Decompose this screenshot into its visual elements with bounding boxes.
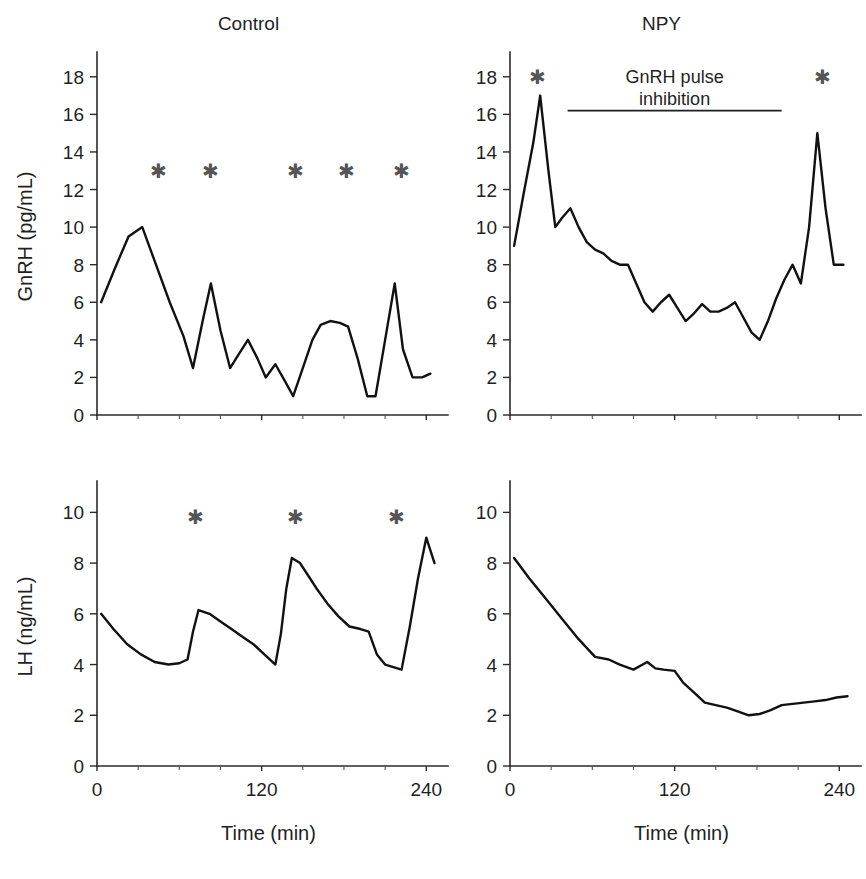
x-tick-label-lh-control-120: 120: [246, 779, 278, 800]
y-tick-label-gnrh-control-6: 6: [73, 292, 84, 313]
y-tick-label-gnrh-npy-16: 16: [476, 104, 497, 125]
y-tick-label-lh-npy-4: 4: [486, 655, 497, 676]
panel-gnrh-control: Control024681012141618GnRH (pg/mL)✱✱✱✱✱: [14, 13, 448, 426]
x-tick-label-lh-npy-240: 240: [823, 779, 855, 800]
figure-root: Control024681012141618GnRH (pg/mL)✱✱✱✱✱N…: [0, 0, 866, 879]
y-tick-label-gnrh-npy-18: 18: [476, 67, 497, 88]
y-tick-label-lh-control-2: 2: [73, 705, 84, 726]
annotation-line1-gnrh-npy: GnRH pulse: [626, 67, 724, 87]
y-tick-label-gnrh-npy-2: 2: [486, 367, 497, 388]
y-tick-label-gnrh-npy-12: 12: [476, 180, 497, 201]
y-axis-label-gnrh-control: GnRH (pg/mL): [14, 171, 36, 301]
panel-lh-npy: 02468100120240Time (min): [476, 481, 861, 844]
y-tick-label-gnrh-control-14: 14: [63, 142, 85, 163]
data-line-gnrh-npy-0: [514, 96, 843, 340]
y-tick-label-gnrh-npy-6: 6: [486, 292, 497, 313]
significance-star-gnrh-control-2: ✱: [287, 160, 304, 182]
y-tick-label-gnrh-control-16: 16: [63, 104, 84, 125]
significance-star-gnrh-npy-0: ✱: [529, 66, 546, 88]
significance-star-lh-control-1: ✱: [287, 506, 304, 528]
significance-star-lh-control-0: ✱: [187, 506, 204, 528]
y-tick-label-gnrh-npy-10: 10: [476, 217, 497, 238]
y-tick-label-lh-npy-0: 0: [486, 756, 497, 777]
significance-star-gnrh-npy-1: ✱: [814, 66, 831, 88]
y-tick-label-gnrh-control-0: 0: [73, 405, 84, 426]
y-tick-label-gnrh-npy-4: 4: [486, 330, 497, 351]
y-tick-label-gnrh-npy-8: 8: [486, 255, 497, 276]
y-tick-label-gnrh-npy-0: 0: [486, 405, 497, 426]
figure-svg: Control024681012141618GnRH (pg/mL)✱✱✱✱✱N…: [0, 0, 866, 879]
significance-star-gnrh-control-3: ✱: [338, 160, 355, 182]
y-tick-label-gnrh-control-8: 8: [73, 255, 84, 276]
x-tick-label-lh-npy-0: 0: [505, 779, 516, 800]
significance-star-gnrh-control-1: ✱: [202, 160, 219, 182]
data-line-lh-npy-0: [514, 558, 847, 715]
y-tick-label-lh-npy-8: 8: [486, 553, 497, 574]
significance-star-lh-control-2: ✱: [388, 506, 405, 528]
annotation-line2-gnrh-npy: inhibition: [639, 89, 710, 109]
data-line-gnrh-control-0: [101, 227, 430, 396]
y-tick-label-lh-npy-2: 2: [486, 705, 497, 726]
y-tick-label-gnrh-control-18: 18: [63, 67, 84, 88]
y-tick-label-lh-control-0: 0: [73, 756, 84, 777]
y-tick-label-lh-npy-10: 10: [476, 502, 497, 523]
y-tick-label-lh-npy-6: 6: [486, 604, 497, 625]
x-axis-label-lh-control: Time (min): [221, 822, 316, 844]
x-axis-label-lh-npy: Time (min): [634, 822, 729, 844]
x-tick-label-lh-npy-120: 120: [659, 779, 691, 800]
x-tick-label-lh-control-240: 240: [410, 779, 442, 800]
data-line-lh-control-0: [101, 538, 434, 670]
y-tick-label-gnrh-control-10: 10: [63, 217, 84, 238]
y-axis-label-lh-control: LH (ng/mL): [14, 576, 36, 676]
y-tick-label-gnrh-control-2: 2: [73, 367, 84, 388]
significance-star-gnrh-control-0: ✱: [150, 160, 167, 182]
y-tick-label-lh-control-6: 6: [73, 604, 84, 625]
x-tick-label-lh-control-0: 0: [92, 779, 103, 800]
y-tick-label-lh-control-10: 10: [63, 502, 84, 523]
y-tick-label-lh-control-4: 4: [73, 655, 84, 676]
y-tick-label-lh-control-8: 8: [73, 553, 84, 574]
significance-star-gnrh-control-4: ✱: [393, 160, 410, 182]
panel-gnrh-npy: NPY024681012141618✱✱GnRH pulseinhibition: [476, 13, 861, 426]
panel-title-gnrh-npy: NPY: [642, 13, 681, 34]
panel-title-gnrh-control: Control: [218, 13, 279, 34]
y-tick-label-gnrh-control-4: 4: [73, 330, 84, 351]
panel-lh-control: 02468100120240LH (ng/mL)Time (min)✱✱✱: [14, 481, 448, 844]
y-tick-label-gnrh-npy-14: 14: [476, 142, 498, 163]
y-tick-label-gnrh-control-12: 12: [63, 180, 84, 201]
